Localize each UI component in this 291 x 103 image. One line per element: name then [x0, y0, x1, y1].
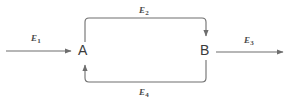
edge-label-e3-subscript: 3	[250, 39, 254, 47]
edge-label-e4: E4	[139, 88, 149, 97]
diagram-canvas: A B E1 E2 E3 E4	[0, 0, 291, 103]
edge-label-e1: E1	[31, 34, 41, 43]
edge-label-e2-subscript: 2	[145, 9, 149, 17]
node-a-label: A	[78, 43, 87, 57]
edge-label-e4-subscript: 4	[145, 91, 149, 99]
edge-label-e3: E3	[244, 36, 254, 45]
node-b-label: B	[200, 43, 209, 57]
edge-e2-path	[85, 18, 206, 42]
edge-label-e2: E2	[139, 6, 149, 15]
edge-e4-path	[85, 60, 206, 82]
edge-label-e1-subscript: 1	[37, 37, 41, 45]
